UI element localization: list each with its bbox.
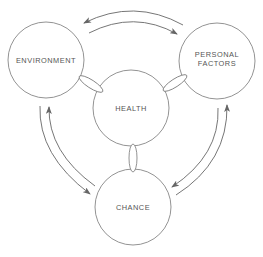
node-label: PERSONAL [195, 50, 239, 59]
arrow-personal-to-chance [172, 108, 218, 187]
arrow-chance-to-personal [176, 105, 227, 195]
node-label: HEALTH [115, 104, 147, 113]
health-factors-diagram: ENVIRONMENT PERSONAL FACTORS HEALTH CHAN… [0, 0, 263, 257]
node-chance: CHANCE [95, 169, 171, 245]
arrow-chance-to-environment [49, 107, 95, 186]
link-environment-health [77, 73, 105, 95]
node-health: HEALTH [93, 70, 169, 146]
node-environment: ENVIRONMENT [8, 22, 84, 98]
node-personal-factors: PERSONAL FACTORS [179, 23, 255, 99]
node-label: ENVIRONMENT [16, 56, 76, 65]
arrow-environment-to-chance [40, 106, 90, 194]
arrow-environment-to-personal [89, 22, 177, 34]
node-label: FACTORS [198, 59, 236, 68]
link-personal-health [161, 72, 189, 94]
link-health-chance [129, 144, 137, 172]
node-label: CHANCE [116, 203, 150, 212]
arrow-personal-to-environment [84, 11, 183, 25]
